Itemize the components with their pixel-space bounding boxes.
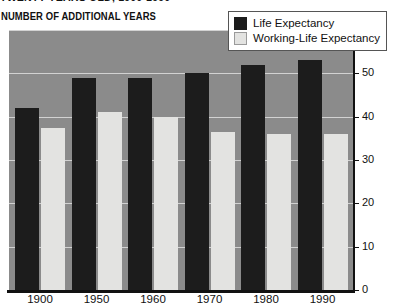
- bar[interactable]: [41, 128, 65, 291]
- x-axis-tick-label: 1980: [243, 294, 289, 306]
- bar[interactable]: [154, 117, 178, 290]
- bar[interactable]: [324, 134, 348, 290]
- y-axis-tick-label: 10: [362, 241, 374, 252]
- bar-group: [185, 30, 235, 290]
- bar[interactable]: [72, 78, 96, 290]
- bar[interactable]: [128, 78, 152, 290]
- bar[interactable]: [211, 132, 235, 290]
- bar-group: [128, 30, 178, 290]
- bar[interactable]: [267, 134, 291, 290]
- bar[interactable]: [241, 65, 265, 290]
- x-axis-tick-label: 1990: [300, 294, 346, 306]
- y-axis-unit-label: NUMBER OF ADDITIONAL YEARS: [1, 10, 156, 22]
- bar-group: [72, 30, 122, 290]
- y-axis-tick: [353, 290, 359, 291]
- y-axis-tick-label: 50: [362, 67, 374, 78]
- legend-swatch-icon: [234, 17, 247, 30]
- x-axis-tick-label: 1960: [130, 294, 176, 306]
- y-axis-tick: [353, 247, 359, 248]
- bar[interactable]: [185, 73, 209, 290]
- y-axis-tick: [353, 117, 359, 118]
- legend-swatch-icon: [234, 32, 247, 45]
- bar-series-layer: [9, 30, 353, 290]
- bar-group: [15, 30, 65, 290]
- x-axis-line: [7, 290, 355, 293]
- legend-item-working-life-expectancy[interactable]: Working-Life Expectancy: [234, 31, 380, 46]
- page-title: TWENTY YEARS OLD, 1900-1990: [0, 0, 170, 3]
- legend-item-label: Life Expectancy: [253, 18, 334, 30]
- y-axis-tick: [353, 73, 359, 74]
- bar[interactable]: [15, 108, 39, 290]
- y-axis-tick-label: 0: [362, 284, 368, 295]
- y-axis-tick-label: 40: [362, 111, 374, 122]
- x-axis-tick-label: 1900: [17, 294, 63, 306]
- bar-group: [298, 30, 348, 290]
- y-axis-tick: [353, 203, 359, 204]
- bar[interactable]: [298, 60, 322, 290]
- x-axis-tick-label: 1970: [187, 294, 233, 306]
- bar[interactable]: [98, 112, 122, 290]
- bar-group: [241, 30, 291, 290]
- x-axis-tick-label: 1950: [74, 294, 120, 306]
- legend-item-label: Working-Life Expectancy: [253, 33, 380, 45]
- y-axis-tick-label: 20: [362, 197, 374, 208]
- y-axis-tick: [353, 160, 359, 161]
- y-axis-tick-label: 30: [362, 154, 374, 165]
- plot-area: [9, 30, 353, 290]
- chart-legend: Life Expectancy Working-Life Expectancy: [228, 11, 387, 51]
- legend-item-life-expectancy[interactable]: Life Expectancy: [234, 16, 380, 31]
